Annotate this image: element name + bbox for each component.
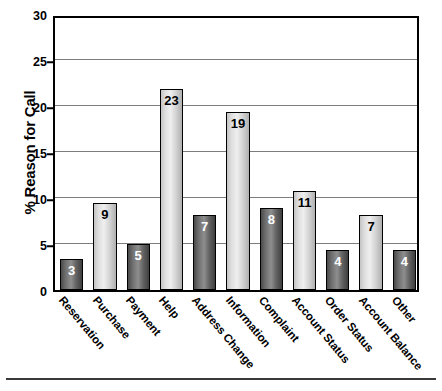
bar-value-label: 11 <box>298 196 312 209</box>
bar-complaint: 8 <box>260 208 283 290</box>
bars-group: 39523719811474 <box>55 18 417 290</box>
bar-value-label: 5 <box>135 249 142 262</box>
y-tick-label-5: 5 <box>15 239 47 253</box>
bar-value-label: 9 <box>101 208 108 221</box>
bar-other: 4 <box>393 250 416 290</box>
bar-reservation: 3 <box>60 259 83 290</box>
x-axis-category-labels: ReservationPurchasePaymentHelpAddress Ch… <box>53 294 419 380</box>
bar-value-label: 4 <box>334 255 341 268</box>
bar-value-label: 23 <box>164 94 178 107</box>
y-tick-label-0: 0 <box>15 285 47 299</box>
y-tick-label-15: 15 <box>15 147 47 161</box>
bar-value-label: 3 <box>68 264 75 277</box>
y-tick-label-10: 10 <box>15 193 47 207</box>
x-tick-label-help: Help <box>157 294 182 321</box>
bar-account-status: 11 <box>293 191 316 290</box>
bar-help: 23 <box>160 89 183 290</box>
bar-information: 19 <box>226 112 249 290</box>
bar-value-label: 4 <box>401 255 408 268</box>
bottom-divider <box>6 378 436 380</box>
plot-area: 39523719811474 <box>53 16 419 292</box>
y-tick-label-20: 20 <box>15 101 47 115</box>
x-tick-label-address-change: Address Change <box>190 294 257 371</box>
y-tick-label-25: 25 <box>15 55 47 69</box>
bar-order-status: 4 <box>326 250 349 290</box>
x-tick-label-account-balance: Account Balance <box>357 294 425 372</box>
x-tick-label-other: Other <box>390 294 419 325</box>
bar-value-label: 19 <box>231 117 245 130</box>
bar-value-label: 7 <box>201 220 208 233</box>
bar-chart-figure: % Reason for Call 051015202530 395237198… <box>0 0 442 391</box>
bar-payment: 5 <box>127 244 150 290</box>
y-tick-label-30: 30 <box>15 9 47 23</box>
bar-purchase: 9 <box>93 203 116 290</box>
bar-address-change: 7 <box>193 215 216 290</box>
bar-value-label: 8 <box>268 213 275 226</box>
x-tick-label-account-status: Account Status <box>290 294 353 365</box>
bar-account-balance: 7 <box>359 215 382 290</box>
bar-value-label: 7 <box>367 220 374 233</box>
